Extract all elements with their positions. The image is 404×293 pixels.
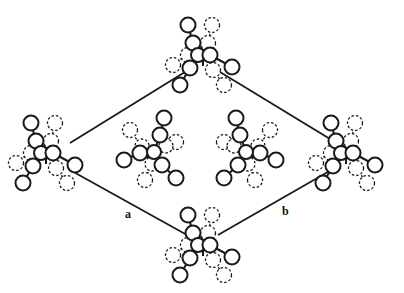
molecule-top [166,18,240,93]
molecule-bottom [166,208,240,283]
axis-label-a: a [125,207,131,222]
molecule-center-left [117,111,184,188]
molecule-center-right [217,111,284,188]
molecule-right [309,116,383,191]
axis-label-b: b [282,204,289,219]
crystal-packing-diagram [0,0,404,293]
molecule-left [9,116,83,191]
unit-cell-outline [70,72,335,235]
